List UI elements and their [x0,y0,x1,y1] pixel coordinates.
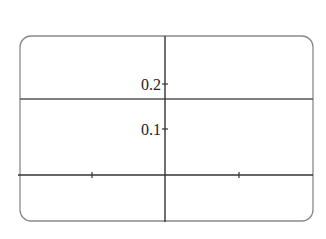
y-tick-label-0.2: 0.2 [141,76,161,93]
plot-area: 0.2 0.1 [0,0,326,239]
y-tick-label-0.1: 0.1 [141,121,161,138]
